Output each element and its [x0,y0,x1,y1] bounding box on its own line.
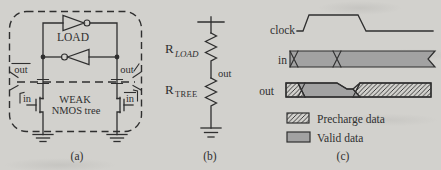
cross-wires [38,57,123,99]
legend-valid-label: Valid data [317,132,363,144]
out-bar-label-left: out [14,64,28,75]
in-bus-waveform [290,51,435,67]
panel-c-caption: (c) [337,150,350,163]
r-load-subscript: LOAD [174,49,199,59]
weak-nmos-tree-label-line1: WEAK [59,94,91,105]
out-label-right: out [120,64,134,75]
in-label-left: in [23,93,32,104]
panel-a-circuit: LOAD out out in in WEAK NMOS [0,0,160,170]
supply-rail [198,17,224,33]
weak-nmos-tree-label-line2: NMOS tree [52,105,101,116]
inverter-bottom-icon [43,50,117,65]
ground-icon [201,128,221,137]
panel-b-caption: (b) [203,150,217,163]
in-bar-label-right: in [126,93,135,104]
resistor-tree-icon [206,78,217,128]
legend-valid-swatch [287,132,310,142]
panel-a-caption: (a) [71,150,84,163]
in-label: in [278,54,287,66]
clock-waveform [297,15,433,31]
out-label: out [259,85,275,97]
divider-out-label: out [218,68,232,79]
ground-icon-left [33,135,53,142]
r-tree-subscript: TREE [175,89,197,99]
clock-label: clock [270,24,295,36]
legend-precharge-swatch [287,113,309,123]
load-label: LOAD [57,31,89,43]
ground-icon-right [107,135,127,142]
panel-b-circuit: R LOAD out R TREE (b) [158,0,270,170]
paper-figure: LOAD out out in in WEAK NMOS [0,0,441,170]
r-load-label: R [165,41,174,56]
resistor-load-icon [206,33,217,78]
legend-precharge-label: Precharge data [317,113,385,126]
out-bus-waveform [286,83,431,97]
r-tree-label: R [165,82,174,97]
panel-c-timing: clock in out Precharge data Valid data (… [258,0,441,170]
